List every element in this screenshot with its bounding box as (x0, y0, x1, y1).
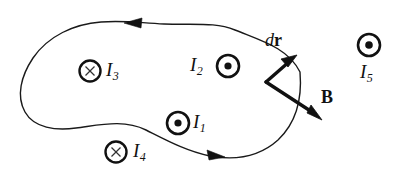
current-label-I2-text: I (190, 54, 196, 75)
current-label-I4-subscript: 4 (140, 150, 146, 164)
dr-vector-arrow (266, 55, 297, 82)
current-label-I5-text: I (360, 61, 366, 82)
dr-vector-label-r: r (274, 30, 282, 50)
current-label-I5: I5 (360, 62, 373, 84)
current-label-I1-text: I (193, 111, 199, 132)
amperian-loop-path (20, 21, 300, 157)
b-field-vector-arrow (266, 82, 322, 120)
current-label-I1-subscript: 1 (200, 121, 206, 135)
current-symbol-I4 (106, 142, 127, 163)
current-symbol-I2 (217, 55, 239, 77)
current-label-I4-text: I (133, 140, 139, 161)
loop-arrowhead-bottom (207, 150, 225, 160)
loop-arrowhead-top (124, 18, 142, 28)
dr-vector-label: dr (265, 31, 282, 49)
current-symbol-I1 (167, 112, 189, 134)
current-symbol-I5 (358, 34, 380, 56)
current-label-I1: I1 (193, 112, 206, 134)
amperes-law-diagram (0, 0, 401, 179)
current-label-I3: I3 (106, 60, 119, 82)
current-label-I3-text: I (106, 59, 112, 80)
current-symbol-I3 (80, 61, 101, 82)
current-label-I4: I4 (133, 141, 146, 163)
current-label-I5-subscript: 5 (367, 71, 373, 85)
b-field-vector-label: B (321, 88, 333, 106)
current-label-I2: I2 (190, 55, 203, 77)
current-label-I2-subscript: 2 (197, 64, 203, 78)
current-label-I3-subscript: 3 (113, 69, 119, 83)
dr-vector-label-d: d (265, 30, 274, 50)
